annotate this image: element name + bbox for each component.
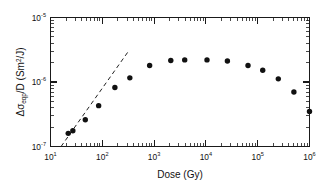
- data-point: [112, 85, 117, 90]
- y-title-divisor: /D (Sm: [15, 62, 26, 93]
- svg-text:Δσeqp/D (Sm2/J): Δσeqp/D (Sm2/J): [15, 47, 29, 116]
- data-point: [83, 117, 88, 122]
- x-axis-ticks: [51, 18, 310, 147]
- data-point: [168, 58, 173, 63]
- y-axis-title: Δσeqp/D (Sm2/J): [15, 47, 29, 116]
- x-tick-label: 106: [303, 151, 315, 162]
- x-tick-label: 103: [148, 151, 160, 162]
- y-axis-ticks: [51, 18, 310, 147]
- axes-frame: [51, 18, 310, 147]
- y-tick-label: 10-7: [32, 141, 46, 152]
- data-point: [291, 89, 296, 94]
- figure-container: 101102103104105106 10-710-610-5 Dose (Gy…: [0, 0, 330, 190]
- data-point: [70, 128, 75, 133]
- x-tick-label: 105: [251, 151, 263, 162]
- y-tick-label: 10-6: [32, 76, 46, 87]
- data-point: [127, 75, 132, 80]
- data-point: [307, 109, 312, 114]
- data-point: [276, 76, 281, 81]
- data-point: [96, 103, 101, 108]
- data-point-group: [66, 57, 313, 136]
- y-title-subscript: eqp: [20, 93, 28, 104]
- data-point: [182, 57, 187, 62]
- chart-plot-area: 101102103104105106 10-710-610-5 Dose (Gy…: [0, 0, 330, 190]
- x-tick-label: 102: [96, 151, 108, 162]
- x-axis-tick-labels: 101102103104105106: [44, 151, 315, 162]
- data-point: [225, 58, 230, 63]
- data-point: [260, 68, 265, 73]
- x-axis-title: Dose (Gy): [157, 169, 203, 180]
- y-title-tail: /J): [15, 47, 26, 58]
- x-tick-label: 101: [44, 151, 56, 162]
- x-tick-label: 104: [200, 151, 212, 162]
- data-point: [245, 63, 250, 68]
- y-axis-tick-labels: 10-710-610-5: [32, 12, 46, 152]
- data-point: [66, 131, 71, 136]
- data-point: [147, 63, 152, 68]
- y-tick-label: 10-5: [32, 12, 46, 23]
- data-point: [204, 57, 209, 62]
